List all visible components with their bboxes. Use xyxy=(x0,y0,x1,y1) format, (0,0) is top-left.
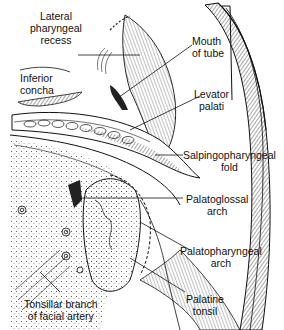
label-line: pharyngeal xyxy=(30,22,82,34)
label-line: arch xyxy=(180,257,262,269)
anatomy-figure: Lateral pharyngeal recess Inferior conch… xyxy=(0,0,284,330)
label-line: concha xyxy=(20,84,54,96)
label-line: of facial artery xyxy=(24,310,98,322)
label-lateral-pharyngeal-recess: Lateral pharyngeal recess xyxy=(30,10,82,46)
label-line: fold xyxy=(183,161,276,173)
label-levator-palati: Levator palati xyxy=(194,88,229,112)
label-palatine-tonsil: Palatine tonsil xyxy=(186,293,224,317)
label-line: of tube xyxy=(192,47,224,59)
label-tonsillar-branch: Tonsillar branch of facial artery xyxy=(24,298,98,322)
label-salpingopharyngeal-fold: Salpingopharyngeal fold xyxy=(183,149,276,173)
label-line: Palatopharyngeal xyxy=(180,245,262,257)
label-line: Lateral xyxy=(30,10,82,22)
label-line: Palatoglossal xyxy=(186,193,248,205)
label-inferior-concha: Inferior concha xyxy=(20,72,54,96)
label-line: Levator xyxy=(194,88,229,100)
label-line: palati xyxy=(194,100,229,112)
label-line: arch xyxy=(186,205,248,217)
label-palatoglossal-arch: Palatoglossal arch xyxy=(186,193,248,217)
label-line: Inferior xyxy=(20,72,54,84)
label-line: Mouth xyxy=(192,35,224,47)
label-line: Palatine xyxy=(186,293,224,305)
label-palatopharyngeal-arch: Palatopharyngeal arch xyxy=(180,245,262,269)
label-line: recess xyxy=(30,34,82,46)
label-line: Tonsillar branch xyxy=(24,298,98,310)
label-mouth-of-tube: Mouth of tube xyxy=(192,35,224,59)
label-line: Salpingopharyngeal xyxy=(183,149,276,161)
label-line: tonsil xyxy=(186,305,224,317)
